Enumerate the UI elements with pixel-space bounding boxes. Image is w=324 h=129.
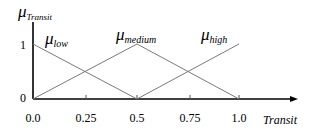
series-mu-medium [33, 44, 239, 99]
label-mu-medium: μmedium [115, 25, 156, 45]
x-tick-025: 0.25 [76, 111, 97, 125]
label-mu-high: μhigh [200, 25, 227, 45]
x-tick-05: 0.5 [130, 111, 145, 125]
label-mu-low: μlow [44, 29, 68, 49]
x-axis-label: Transit [263, 113, 298, 127]
y-axis-label: μTransit [17, 2, 53, 22]
y-tick-1: 1 [20, 38, 26, 52]
fuzzy-membership-chart: 1 0 0.0 0.25 0.5 0.75 1.0 Transit μTrans… [0, 0, 324, 129]
x-tick-0: 0.0 [26, 111, 41, 125]
x-axis-arrow-icon [290, 96, 298, 102]
x-tick-10: 1.0 [232, 111, 247, 125]
y-tick-0: 0 [20, 91, 26, 105]
x-tick-075: 0.75 [180, 111, 201, 125]
